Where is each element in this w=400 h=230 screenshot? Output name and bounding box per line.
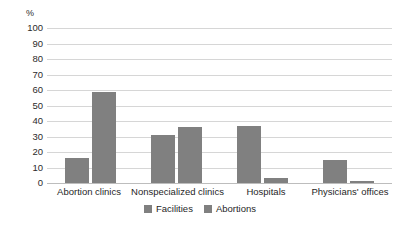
bar-group-bars (220, 28, 306, 183)
bar-group-bars (306, 28, 392, 183)
y-axis-tick-label: 80 (3, 54, 43, 64)
bar-abortions (264, 178, 288, 183)
legend-swatch-icon (204, 205, 212, 213)
bar-facilities (323, 160, 347, 183)
legend-item: Abortions (204, 204, 256, 214)
x-axis-category-label: Physicians' offices (308, 186, 392, 197)
bar-abortions (92, 92, 116, 183)
y-axis: 1009080706050403020100 (0, 28, 43, 183)
y-axis-tick-label: 60 (3, 85, 43, 95)
bar-group (133, 28, 219, 183)
bar-groups (47, 28, 392, 183)
bar-group-bars (133, 28, 219, 183)
bar-group (220, 28, 306, 183)
y-axis-tick-label: 40 (3, 116, 43, 126)
bar-group (306, 28, 392, 183)
x-axis-category-label: Hospitals (224, 186, 308, 197)
y-axis-tick-label: 10 (3, 163, 43, 173)
y-axis-tick-label: 50 (3, 101, 43, 111)
legend-label: Abortions (216, 204, 256, 214)
legend-swatch-icon (144, 205, 152, 213)
bar-abortions (350, 181, 374, 183)
y-axis-tick-label: 100 (3, 23, 43, 33)
y-axis-unit-label: % (26, 8, 34, 18)
bar-group (47, 28, 133, 183)
x-axis-category-label: Abortion clinics (47, 186, 131, 197)
bar-abortions (178, 127, 202, 183)
y-axis-tick-label: 20 (3, 147, 43, 157)
bar-facilities (237, 126, 261, 183)
bar-facilities (151, 135, 175, 183)
bar-facilities (65, 158, 89, 183)
x-axis-category-label: Nonspecialized clinics (131, 186, 224, 197)
y-axis-tick-label: 70 (3, 70, 43, 80)
y-axis-tick-label: 30 (3, 132, 43, 142)
chart-legend: FacilitiesAbortions (0, 204, 400, 214)
bar-chart: % 1009080706050403020100 Abortion clinic… (0, 0, 400, 230)
bar-group-bars (47, 28, 133, 183)
x-axis-labels: Abortion clinicsNonspecialized clinicsHo… (47, 186, 392, 197)
y-axis-tick-label: 0 (3, 178, 43, 188)
legend-item: Facilities (144, 204, 193, 214)
axis-baseline (47, 183, 392, 184)
y-axis-tick-label: 90 (3, 39, 43, 49)
legend-label: Facilities (156, 204, 193, 214)
